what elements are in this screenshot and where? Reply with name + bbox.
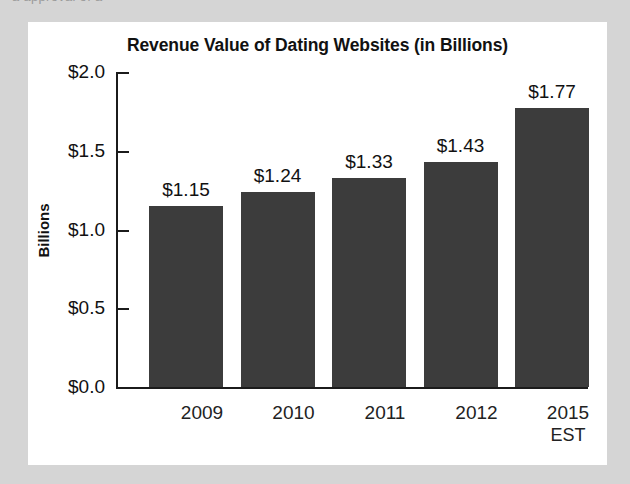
chart-figure-card: Revenue Value of Dating Websites (in Bil… [28,22,607,465]
y-axis-title: Billions [35,186,52,276]
clipped-page-text-line: a approval of a [12,0,103,3]
clipped-page-text: a approval of a [0,0,630,12]
y-axis-tick-label: $1.5 [68,140,105,162]
x-axis-category-text: 2009 [181,402,223,423]
x-axis-category-label: 2009 [149,401,255,424]
y-axis-tick-label: $0.0 [68,376,105,398]
bar[interactable] [332,178,406,387]
x-axis-category-text: 2015 [547,402,589,423]
bar[interactable] [241,192,315,387]
x-axis-category-text: 2011 [365,402,406,423]
x-axis-category-label: 2010 [241,401,347,424]
y-axis-tick-label: $2.0 [68,61,105,83]
y-axis-tick-label: $1.0 [68,219,105,241]
bar-value-label: $1.43 [412,135,510,157]
x-axis-line [116,387,588,389]
plot-area: $0.0$0.5$1.0$1.5$2.0 $1.15$1.24$1.33$1.4… [116,72,588,388]
bar[interactable] [424,162,498,387]
bar-value-label: $1.24 [229,165,327,187]
x-axis-category-label: 2011 [332,401,438,424]
y-axis-tick-mark [118,72,129,74]
bar-value-label: $1.15 [137,179,235,201]
chart-title: Revenue Value of Dating Websites (in Bil… [28,35,607,56]
bar[interactable] [149,206,223,387]
x-axis-category-sublabel: EST [515,424,621,447]
bar-value-label: $1.33 [320,151,418,173]
y-axis-tick-mark [118,308,129,310]
y-axis-tick-mark [118,151,129,153]
y-axis-tick-label: $0.5 [68,297,105,319]
bar[interactable] [515,108,589,387]
x-axis-category-label: 2015EST [515,401,621,447]
x-axis-category-text: 2012 [455,402,497,423]
bar-value-label: $1.77 [503,81,601,103]
x-axis-category-text: 2010 [272,402,314,423]
y-axis-tick-mark [118,387,129,389]
x-axis-category-label: 2012 [424,401,530,424]
y-axis-tick-mark [118,230,129,232]
